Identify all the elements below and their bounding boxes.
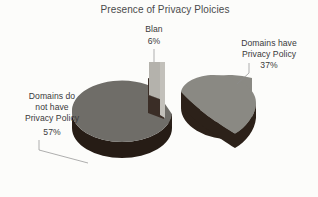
label-blank-percent: 6% [148, 36, 161, 46]
pie-slice-blank-highlight [160, 62, 165, 118]
pie-chart-figure: Presence of Privacy Ploicies [0, 0, 318, 197]
label-blank-line1: Blan [145, 24, 163, 34]
chart-title: Presence of Privacy Ploicies [101, 4, 230, 15]
label-domains-not-have-line3: Privacy Policy [25, 113, 80, 123]
label-domains-not-have-line1: Domains do [29, 91, 76, 101]
pie-slice-blank[interactable] [148, 62, 165, 119]
pie-slice-domains-have[interactable] [181, 75, 256, 148]
label-domains-not-have: Domains do not have Privacy Policy 57% [25, 91, 80, 137]
label-domains-have-line1: Domains have [241, 38, 297, 48]
label-blank: Blan 6% [145, 24, 163, 46]
label-domains-have-line2: Privacy Policy [242, 49, 297, 59]
label-domains-not-have-percent: 57% [43, 127, 61, 137]
chart-canvas: Presence of Privacy Ploicies [0, 0, 318, 197]
label-domains-not-have-line2: not have [35, 102, 69, 112]
label-domains-have-percent: 37% [260, 60, 278, 70]
label-domains-have: Domains have Privacy Policy 37% [241, 38, 297, 70]
